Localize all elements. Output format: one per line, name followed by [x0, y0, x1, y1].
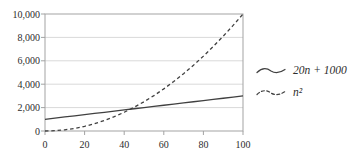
function-growth-chart: 02,0004,0006,0008,00010,000020406080100 … [0, 0, 361, 163]
x-tick-label: 80 [198, 139, 208, 150]
legend-item-linear: 20n + 1000 [256, 60, 347, 82]
x-tick-label: 60 [159, 139, 169, 150]
plot-area [45, 14, 243, 131]
y-tick-label: 4,000 [18, 79, 41, 90]
legend-label-quadratic: n² [293, 87, 302, 99]
chart-legend: 20n + 1000 n² [256, 60, 347, 104]
legend-label-linear: 20n + 1000 [293, 65, 347, 77]
x-tick-label: 40 [119, 139, 129, 150]
x-tick-label: 20 [80, 139, 90, 150]
y-tick-label: 2,000 [18, 102, 41, 113]
solid-line-sample [257, 69, 285, 73]
dashed-squiggle-line-icon [256, 87, 286, 99]
y-tick-label: 0 [35, 126, 40, 137]
solid-squiggle-line-icon [256, 65, 286, 77]
x-tick-label: 0 [43, 139, 48, 150]
y-tick-label: 6,000 [18, 55, 41, 66]
x-tick-label: 100 [236, 139, 251, 150]
y-tick-label: 10,000 [13, 9, 41, 20]
dashed-line-sample [257, 91, 285, 95]
y-tick-label: 8,000 [18, 32, 41, 43]
legend-item-quadratic: n² [256, 82, 347, 104]
